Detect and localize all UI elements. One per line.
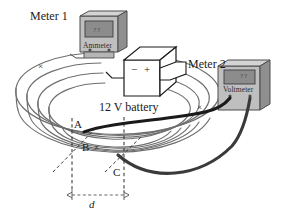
voltmeter-device-label: Voltmeter [223,86,253,94]
dimension-d [72,190,124,200]
voltmeter-readout: ?? [240,73,248,80]
ammeter-body [70,11,127,58]
battery-caption: 12 V battery [99,101,159,113]
meter2-caption: Meter 2 [188,58,226,70]
field-mark-right-icon: × [197,103,202,112]
dimension-label-d: d [89,199,95,210]
field-mark-left-icon: × [38,62,43,71]
physics-circuit-figure: Meter 1 Meter 2 ?? Ammeter ?? Voltmeter … [0,0,289,223]
meter1-caption: Meter 1 [30,10,68,22]
battery-negative-terminal-label: − [131,64,137,75]
battery-positive-terminal-label: + [144,64,150,75]
ammeter-device-label: Ammeter [83,42,112,50]
point-label-b: B [82,142,89,153]
point-label-c: C [113,167,120,178]
point-label-a: A [74,119,82,130]
ammeter-readout: ?? [93,27,101,34]
point-b-field-mark-icon: × [94,143,99,152]
